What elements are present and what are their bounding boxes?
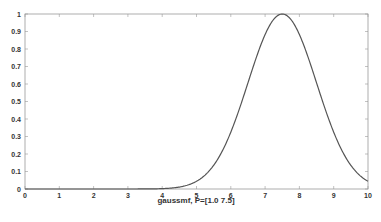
gaussian-curve — [25, 14, 368, 189]
x-axis-ticks: 012345678910 — [23, 14, 372, 199]
x-tick-label: 8 — [297, 192, 301, 199]
gaussmf-chart: 00.10.20.30.40.50.60.70.80.91 0123456789… — [0, 0, 381, 222]
y-axis-ticks: 00.10.20.30.40.50.60.70.80.91 — [11, 11, 368, 193]
plot-frame — [25, 14, 368, 189]
x-tick-label: 9 — [332, 192, 336, 199]
y-tick-label: 0 — [17, 186, 21, 193]
y-tick-label: 0.1 — [11, 168, 21, 175]
y-tick-label: 0.9 — [11, 28, 21, 35]
x-tick-label: 7 — [263, 192, 267, 199]
x-axis-label: gaussmf, P=[1.0 7.5] — [157, 196, 234, 205]
x-tick-label: 1 — [57, 192, 61, 199]
x-tick-label: 2 — [92, 192, 96, 199]
y-tick-label: 0.2 — [11, 151, 21, 158]
x-tick-label: 10 — [364, 192, 372, 199]
y-tick-label: 0.6 — [11, 81, 21, 88]
y-tick-label: 1 — [17, 11, 21, 18]
plot-axes-box — [25, 14, 368, 189]
x-tick-label: 3 — [126, 192, 130, 199]
y-tick-label: 0.7 — [11, 63, 21, 70]
y-tick-label: 0.4 — [11, 116, 21, 123]
y-tick-label: 0.5 — [11, 98, 21, 105]
x-tick-label: 0 — [23, 192, 27, 199]
y-tick-label: 0.3 — [11, 133, 21, 140]
y-tick-label: 0.8 — [11, 46, 21, 53]
